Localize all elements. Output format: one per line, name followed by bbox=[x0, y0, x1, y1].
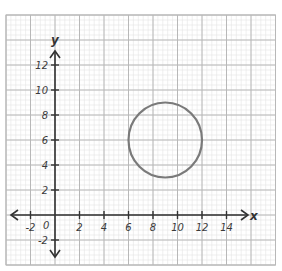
y-tick-label: 10 bbox=[35, 85, 48, 96]
x-tick-label: 4 bbox=[101, 222, 107, 233]
y-tick-label: 4 bbox=[42, 160, 48, 171]
x-tick-label: 6 bbox=[125, 222, 131, 233]
y-tick-label: -2 bbox=[38, 235, 48, 246]
y-tick-label: 2 bbox=[42, 185, 48, 196]
y-tick-label: 12 bbox=[35, 60, 48, 71]
x-tick-label: 12 bbox=[196, 222, 209, 233]
y-tick-label: 6 bbox=[42, 135, 48, 146]
x-tick-label: 8 bbox=[150, 222, 156, 233]
x-tick-label: -2 bbox=[26, 222, 36, 233]
x-tick-label: 10 bbox=[171, 222, 184, 233]
coordinate-plane: -2246810121412108642-2 y x 0 bbox=[0, 0, 282, 271]
x-tick-label: 2 bbox=[76, 222, 82, 233]
origin-label: 0 bbox=[43, 220, 49, 231]
x-tick-label: 14 bbox=[220, 222, 233, 233]
y-tick-label: 8 bbox=[42, 110, 48, 121]
x-axis-label: x bbox=[249, 209, 259, 223]
y-axis-label: y bbox=[51, 33, 60, 47]
